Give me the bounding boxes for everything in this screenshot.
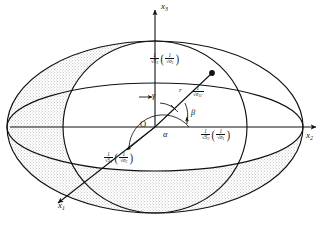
paren-close: ): [130, 152, 133, 165]
vector-label-r: r: [179, 86, 182, 94]
paren-open: (: [115, 152, 118, 165]
frac-S1: 1 √S1: [104, 152, 113, 164]
frac-sigma11p: 1 √σ11': [192, 86, 204, 98]
paren-open: (: [212, 129, 215, 142]
ellipsoid-figure: x3 x2 x1 O γ β α r 1 √S3 ( 1 √σ3 ) 1 √S2…: [0, 0, 326, 229]
axis-label-x3: x3: [161, 1, 168, 11]
figure-canvas: [0, 0, 326, 229]
frac-sigma1: 1 √σ1: [216, 129, 225, 141]
paren-close: ): [227, 129, 230, 142]
frac-sigma2: 1 √σ2: [119, 152, 128, 164]
angle-alpha-arc: [129, 115, 189, 148]
frac-S2: 1 √S2: [201, 129, 210, 141]
projection-line: [127, 127, 155, 150]
angle-label-beta: β: [191, 107, 195, 117]
origin-label: O: [140, 119, 146, 129]
radius-magnitude-label: 1 √σ11': [192, 86, 204, 98]
angle-label-gamma: γ: [152, 90, 155, 100]
semi-axis-label-x3: 1 √S3 ( 1 √σ3 ): [150, 53, 179, 65]
frac-S3: 1 √S3: [150, 53, 159, 65]
axis-label-x1: x1: [58, 200, 65, 210]
frac-sigma3: 1 √σ3: [165, 53, 174, 65]
paren-close: ): [176, 53, 179, 66]
radius-vector-r-line: [155, 74, 211, 127]
angle-label-alpha: α: [163, 129, 167, 139]
axis-label-x2: x2: [306, 130, 313, 140]
semi-axis-label-x1: 1 √S1 ( 1 √σ2 ): [104, 152, 133, 164]
semi-axis-label-x2: 1 √S2 ( 1 √σ1 ): [201, 129, 230, 141]
paren-open: (: [161, 53, 164, 66]
vector-tip-dot: [209, 70, 215, 76]
